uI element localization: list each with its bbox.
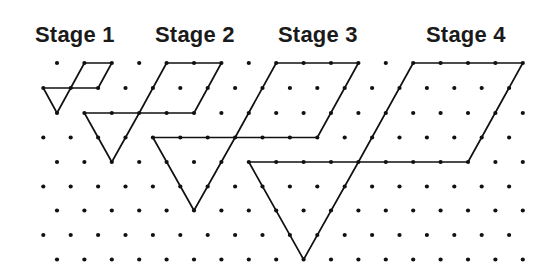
grid-dot <box>110 61 114 65</box>
grid-dot <box>151 184 155 188</box>
stage-1-triangle <box>43 88 70 113</box>
grid-dot <box>521 257 525 261</box>
grid-dot <box>315 135 319 139</box>
grid-dot <box>233 184 237 188</box>
grid-dot <box>82 208 86 212</box>
grid-dot <box>411 257 415 261</box>
grid-dot <box>137 61 141 65</box>
grid-dot <box>302 208 306 212</box>
grid-dot <box>370 86 374 90</box>
grid-dot <box>69 233 73 237</box>
grid-dot <box>493 61 497 65</box>
grid-dot <box>370 233 374 237</box>
grid-dot <box>411 208 415 212</box>
grid-dot <box>288 233 292 237</box>
grid-dot <box>137 160 141 164</box>
grid-dot <box>247 208 251 212</box>
grid-dot <box>55 160 59 164</box>
grid-dot <box>315 86 319 90</box>
grid-dot <box>55 61 59 65</box>
grid-dot <box>493 208 497 212</box>
grid-dot <box>343 184 347 188</box>
grid-dot <box>466 61 470 65</box>
grid-dot <box>96 86 100 90</box>
grid-dot <box>96 184 100 188</box>
grid-dot <box>274 160 278 164</box>
grid-dot <box>274 61 278 65</box>
grid-dot <box>439 111 443 115</box>
grid-dot <box>384 208 388 212</box>
grid-dot <box>233 135 237 139</box>
grid-dot <box>329 61 333 65</box>
grid-dot <box>178 233 182 237</box>
stage-pattern-figure: Stage 1 Stage 2 Stage 3 Stage 4 <box>0 0 555 272</box>
grid-dot <box>260 135 264 139</box>
stage-4-label: Stage 4 <box>426 22 506 48</box>
grid-dot <box>343 135 347 139</box>
grid-dot <box>206 86 210 90</box>
grid-dot <box>370 135 374 139</box>
grid-dot <box>82 111 86 115</box>
grid-dot <box>521 160 525 164</box>
grid-dot <box>356 160 360 164</box>
grid-dot <box>466 160 470 164</box>
grid-dot <box>425 86 429 90</box>
grid-dot <box>439 61 443 65</box>
grid-dot <box>493 257 497 261</box>
grid-dot <box>192 257 196 261</box>
grid-dot <box>384 61 388 65</box>
grid-dot <box>439 208 443 212</box>
grid-dot <box>41 135 45 139</box>
grid-dot <box>123 233 127 237</box>
grid-dot <box>274 208 278 212</box>
grid-dot <box>165 257 169 261</box>
stage-3-shapes <box>153 63 359 211</box>
grid-dot <box>521 111 525 115</box>
stage-3-parallelogram <box>235 63 358 138</box>
grid-dot <box>41 233 45 237</box>
grid-dot <box>507 184 511 188</box>
grid-dot <box>41 86 45 90</box>
grid-dot <box>219 111 223 115</box>
grid-dot <box>480 135 484 139</box>
grid-dot <box>219 61 223 65</box>
grid-dot <box>247 61 251 65</box>
grid-dot <box>137 257 141 261</box>
grid-dot <box>288 86 292 90</box>
grid-dot <box>493 160 497 164</box>
grid-dot <box>96 135 100 139</box>
grid-dot <box>329 257 333 261</box>
grid-dot <box>82 257 86 261</box>
grid-dot <box>233 233 237 237</box>
grid-dot <box>110 160 114 164</box>
grid-dot <box>69 184 73 188</box>
grid-dot <box>206 135 210 139</box>
grid-dot <box>192 61 196 65</box>
grid-dot <box>110 111 114 115</box>
grid-dot <box>247 160 251 164</box>
grid-dot <box>192 160 196 164</box>
grid-dot <box>425 135 429 139</box>
grid-dot <box>123 184 127 188</box>
grid-dot <box>343 86 347 90</box>
stage-1-label: Stage 1 <box>35 22 115 48</box>
grid-dot <box>452 233 456 237</box>
grid-dot <box>439 257 443 261</box>
grid-dot <box>55 111 59 115</box>
grid-dot <box>452 184 456 188</box>
grid-dot <box>219 160 223 164</box>
grid-dot <box>356 208 360 212</box>
grid-dot <box>356 61 360 65</box>
grid-dot <box>343 233 347 237</box>
grid-dot <box>274 257 278 261</box>
grid-dot <box>493 111 497 115</box>
grid-dot <box>329 208 333 212</box>
grid-dot <box>233 86 237 90</box>
grid-dot <box>384 111 388 115</box>
grid-dot <box>165 208 169 212</box>
grid-dot <box>480 86 484 90</box>
grid-dot <box>329 160 333 164</box>
grid-dot <box>151 135 155 139</box>
grid-dot <box>96 233 100 237</box>
grid-dot <box>302 61 306 65</box>
